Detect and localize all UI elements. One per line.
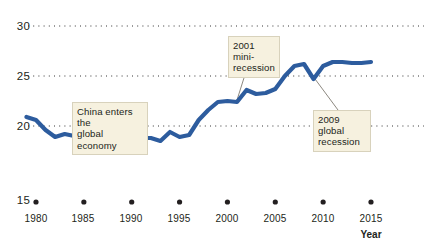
x-axis-label-2010: 2010 [303, 213, 343, 224]
x-axis-label-2000: 2000 [207, 213, 247, 224]
y-axis-label-20: 20 [10, 120, 30, 132]
x-axis-label-1980: 1980 [16, 213, 56, 224]
x-axis-label-2005: 2005 [255, 213, 295, 224]
y-axis-label-25: 25 [10, 70, 30, 82]
line-chart: 30 25 20 15 1980 1985 1990 1995 2000 200… [0, 0, 428, 249]
x-axis-label-2015: 2015 [351, 213, 391, 224]
x-axis-tick-dots [33, 199, 373, 204]
annotation-2001-mini-recession: 2001 mini- recession [228, 36, 280, 78]
y-axis-label-15: 15 [10, 194, 30, 206]
annotation-china-enters-global-economy: China enters the global economy [72, 102, 148, 155]
x-axis-label-1985: 1985 [63, 213, 103, 224]
x-axis-label-1990: 1990 [111, 213, 151, 224]
annotation-2009-global-recession: 2009 global recession [313, 110, 371, 152]
y-axis-label-30: 30 [10, 20, 30, 32]
x-axis-label-1995: 1995 [159, 213, 199, 224]
x-axis-title: Year [351, 229, 391, 240]
